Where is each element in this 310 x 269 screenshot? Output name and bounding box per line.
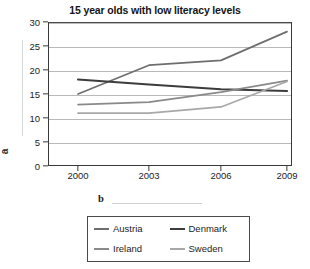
legend: AustriaDenmarkIrelandSweden <box>87 216 250 262</box>
x-axis-tick-label: 2009 <box>276 170 297 181</box>
legend-label: Ireland <box>113 244 142 254</box>
x-axis-tick-label: 2003 <box>138 170 159 181</box>
legend-label: Austria <box>113 224 143 234</box>
y-axis-tick-label: 30 <box>18 17 40 28</box>
series-line-austria <box>78 32 287 94</box>
legend-item-austria[interactable]: Austria <box>94 224 170 234</box>
legend-swatch-austria <box>94 228 109 230</box>
y-axis-tick-label: 20 <box>18 65 40 76</box>
y-axis-tick-label: 15 <box>18 89 40 100</box>
series-layer <box>48 22 292 166</box>
x-axis-tick-label: 2006 <box>210 170 231 181</box>
x-axis-tick-label: 2000 <box>67 170 88 181</box>
y-axis-tick-label: 25 <box>18 41 40 52</box>
annotation-letter-b: b <box>98 193 104 204</box>
legend-swatch-ireland <box>94 248 109 250</box>
legend-label: Denmark <box>189 224 228 234</box>
y-axis-tick-label: 0 <box>18 161 40 172</box>
legend-swatch-sweden <box>170 248 185 250</box>
legend-label: Sweden <box>189 244 223 254</box>
series-line-ireland <box>78 81 287 105</box>
annotation-letter-a: a <box>0 149 10 155</box>
legend-item-ireland[interactable]: Ireland <box>94 244 170 254</box>
legend-swatch-denmark <box>170 228 185 230</box>
legend-item-denmark[interactable]: Denmark <box>170 224 246 234</box>
legend-item-sweden[interactable]: Sweden <box>170 244 246 254</box>
annotation-rule <box>112 203 202 204</box>
page-title: 15 year olds with low literacy levels <box>0 4 310 16</box>
y-axis-tick-label: 5 <box>18 137 40 148</box>
y-axis-tick-label: 10 <box>18 113 40 124</box>
chart-page: 15 year olds with low literacy levels a … <box>0 0 310 269</box>
